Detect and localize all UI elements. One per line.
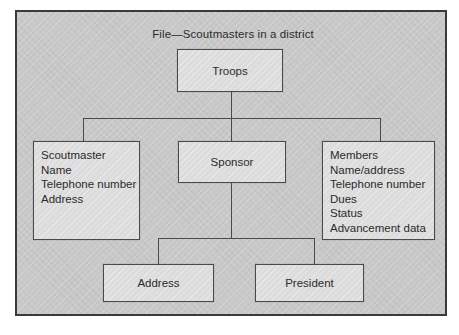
- connector-bus-to-members: [380, 118, 381, 141]
- node-scoutmaster-field: Scoutmaster: [41, 148, 139, 163]
- node-members-field: Members: [330, 148, 434, 163]
- node-members-field: Name/address: [330, 163, 434, 178]
- diagram-title: File—Scoutmasters in a district: [17, 28, 449, 40]
- node-sponsor[interactable]: Sponsor: [178, 141, 286, 183]
- node-address-label: Address: [137, 277, 179, 289]
- connector-bus-to-address: [158, 238, 159, 264]
- connector-sponsor-stem: [231, 183, 232, 238]
- connector-bus-to-president: [314, 238, 315, 264]
- diagram-frame: File—Scoutmasters in a district Troops S…: [15, 10, 447, 316]
- node-members-field: Dues: [330, 192, 434, 207]
- connector-troops-stem: [231, 92, 232, 118]
- node-scoutmaster[interactable]: Scoutmaster Name Telephone number Addres…: [33, 141, 140, 240]
- node-president-label: President: [285, 277, 334, 289]
- node-scoutmaster-field: Address: [41, 192, 139, 207]
- node-members[interactable]: Members Name/address Telephone number Du…: [322, 141, 435, 240]
- connector-lower-bus: [158, 238, 314, 239]
- node-members-field: Telephone number: [330, 177, 434, 192]
- node-sponsor-label: Sponsor: [211, 156, 254, 168]
- connector-bus-to-sponsor: [231, 118, 232, 141]
- connector-bus-to-scoutmaster: [83, 118, 84, 141]
- node-scoutmaster-field: Telephone number: [41, 177, 139, 192]
- node-president[interactable]: President: [255, 264, 364, 302]
- node-members-field: Advancement data: [330, 221, 434, 236]
- diagram-canvas: File—Scoutmasters in a district Troops S…: [0, 0, 459, 335]
- node-scoutmaster-field: Name: [41, 163, 139, 178]
- node-troops[interactable]: Troops: [177, 49, 283, 92]
- node-members-field: Status: [330, 206, 434, 221]
- node-troops-label: Troops: [212, 65, 247, 77]
- node-address[interactable]: Address: [103, 264, 214, 302]
